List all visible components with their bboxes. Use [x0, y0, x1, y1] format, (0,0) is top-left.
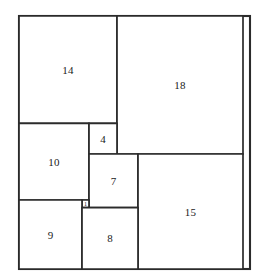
square-10	[19, 123, 89, 200]
dissection-svg	[0, 0, 266, 279]
square-18	[117, 16, 243, 154]
square-1	[82, 200, 89, 208]
square-4	[89, 123, 117, 154]
square-9	[19, 200, 82, 269]
squared-square-figure: 1418104715198	[0, 0, 266, 279]
square-15	[138, 154, 243, 269]
square-14	[19, 16, 117, 123]
tile-group	[19, 16, 243, 269]
square-8	[82, 208, 138, 269]
square-7	[89, 154, 138, 208]
